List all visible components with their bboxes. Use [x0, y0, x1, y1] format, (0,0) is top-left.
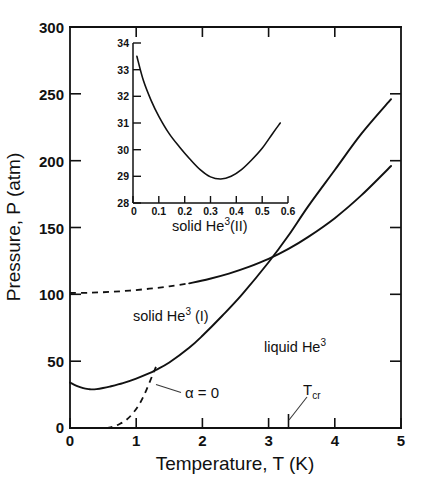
inset-x-tick-labels: 0 0.1 0.2 0.3 0.4 0.5 0.6	[131, 205, 295, 217]
x-tick-label-3: 3	[264, 432, 272, 449]
phase-diagram-svg: 300 250 200 150 100 50 0 0 1 2 3 4 5 Tem…	[0, 0, 428, 488]
inset-x-label-0: 0	[131, 205, 137, 217]
inset-x-label-01: 0.1	[151, 205, 166, 217]
x-axis-ticks-top	[136, 27, 335, 37]
inset-y-label-30: 30	[117, 144, 129, 156]
inset-plot: 34 33 32 31 30 29 28 0 0.1 0.2 0.3 0.4 0…	[117, 37, 295, 217]
inset-x-label-05: 0.5	[255, 205, 270, 217]
y-axis-title: Pressure, P (atm)	[3, 153, 24, 302]
inset-y-label-32: 32	[117, 90, 129, 102]
inset-x-label-03: 0.3	[203, 205, 218, 217]
label-solid-he3-ii: solid He3(II)	[172, 216, 248, 234]
inset-y-label-31: 31	[117, 117, 129, 129]
inset-x-label-02: 0.2	[177, 205, 192, 217]
solid-boundary-dashed	[70, 283, 189, 293]
alpha-zero-curve	[106, 367, 156, 428]
x-tick-label-0: 0	[66, 432, 74, 449]
y-tick-label-0: 0	[56, 419, 64, 436]
tcr-leader-line	[289, 397, 307, 420]
label-alpha-zero: α = 0	[185, 384, 219, 401]
inset-y-label-34: 34	[117, 37, 129, 49]
x-tick-labels: 0 1 2 3 4 5	[66, 432, 405, 449]
x-axis-title: Temperature, T (K)	[156, 453, 315, 474]
label-solid-he3-i: solid He3 (I)	[133, 306, 209, 324]
inset-x-ticks	[133, 196, 288, 203]
y-tick-label-50: 50	[47, 353, 64, 370]
inset-y-tick-labels: 34 33 32 31 30 29 28	[117, 37, 129, 209]
x-tick-label-5: 5	[397, 432, 405, 449]
y-tick-label-150: 150	[39, 220, 64, 237]
y-tick-labels: 300 250 200 150 100 50 0	[39, 19, 64, 436]
label-liquid-he3: liquid He3	[264, 337, 326, 355]
inset-y-label-29: 29	[117, 170, 129, 182]
x-tick-label-2: 2	[198, 432, 206, 449]
inset-melting-curve	[137, 56, 280, 179]
y-tick-label-100: 100	[39, 286, 64, 303]
inset-x-label-06: 0.6	[281, 205, 296, 217]
y-axis-ticks	[70, 27, 81, 428]
y-tick-label-200: 200	[39, 153, 64, 170]
y-tick-label-300: 300	[39, 19, 64, 36]
y-tick-label-250: 250	[39, 86, 64, 103]
inset-y-label-33: 33	[117, 64, 129, 76]
phase-diagram-figure: 300 250 200 150 100 50 0 0 1 2 3 4 5 Tem…	[0, 0, 428, 488]
x-tick-label-1: 1	[132, 432, 140, 449]
inset-y-label-28: 28	[117, 197, 129, 209]
inset-x-label-04: 0.4	[229, 205, 244, 217]
x-tick-label-4: 4	[331, 432, 340, 449]
y-axis-ticks-right	[390, 94, 401, 361]
alpha-zero-leader-line	[156, 385, 181, 393]
